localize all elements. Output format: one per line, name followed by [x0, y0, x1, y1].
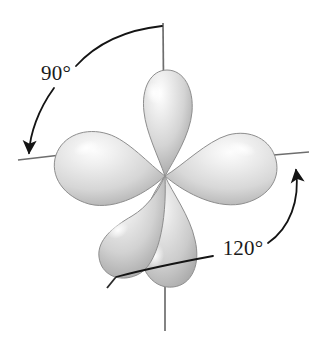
angle-90-arc-upper: [76, 26, 162, 66]
orbital-diagram-figure: 90° 120°: [0, 0, 324, 340]
angle-90-arc-lower: [29, 88, 54, 153]
angle-120-label: 120°: [223, 236, 264, 260]
angle-90-label: 90°: [41, 61, 71, 85]
orbital-diagram-canvas: 90° 120°: [0, 0, 324, 340]
lobe-left: [54, 132, 165, 206]
lobe-top: [143, 70, 192, 176]
